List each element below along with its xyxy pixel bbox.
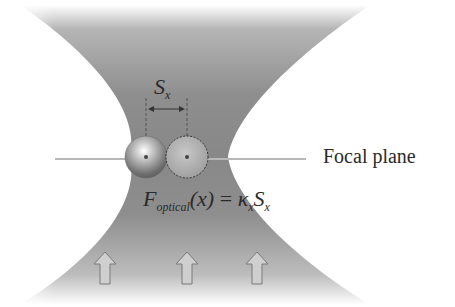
eq-force-subscript: optical [156, 200, 189, 214]
force-equation: Foptical(x) = κxSx [143, 186, 270, 215]
bead-center-dot [144, 155, 148, 159]
eq-force-symbol: F [143, 186, 156, 211]
displacement-symbol: S [154, 74, 165, 99]
eq-displacement-symbol: S [254, 186, 265, 211]
eq-argument: (x) [190, 186, 214, 211]
bead-center-dot [185, 155, 189, 159]
eq-stiffness-symbol: κ [238, 186, 249, 211]
displacement-label: Sx [154, 74, 170, 103]
eq-displacement-subscript: x [265, 200, 270, 214]
eq-equals: = [214, 186, 237, 211]
focal-plane-label: Focal plane [323, 145, 416, 168]
displacement-subscript: x [165, 88, 170, 102]
